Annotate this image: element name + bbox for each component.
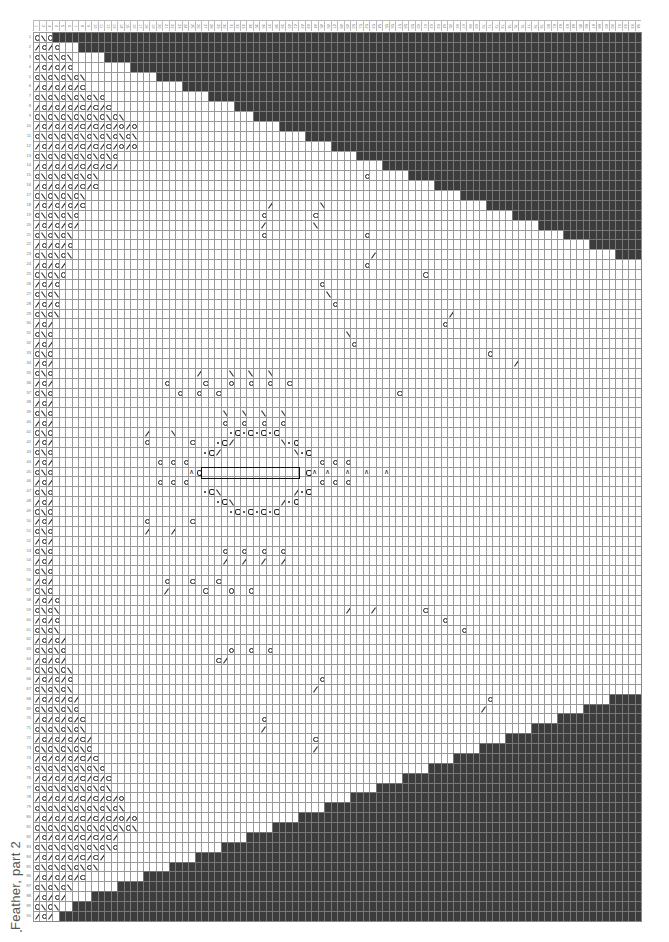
row-number: 83 bbox=[20, 842, 33, 852]
no-stitch-cell bbox=[635, 753, 641, 763]
row-number: 31 bbox=[20, 328, 33, 338]
no-stitch-cell bbox=[635, 812, 641, 822]
no-stitch-cell bbox=[635, 190, 641, 200]
row-number: 50 bbox=[20, 516, 33, 526]
row-number: 37 bbox=[20, 388, 33, 398]
row-number-labels: 1234567891011121314151617181920212223242… bbox=[20, 32, 33, 921]
no-stitch-cell bbox=[635, 802, 641, 812]
row-number: 17 bbox=[20, 190, 33, 200]
row-number: 3 bbox=[20, 52, 33, 62]
row-number: 14 bbox=[20, 160, 33, 170]
no-stitch-cell bbox=[635, 180, 641, 190]
knit-cell bbox=[635, 496, 641, 506]
no-stitch-cell bbox=[635, 881, 641, 891]
no-stitch-cell bbox=[635, 704, 641, 714]
row-number: 13 bbox=[20, 151, 33, 161]
row-number: 48 bbox=[20, 496, 33, 506]
row-number: 19 bbox=[20, 210, 33, 220]
no-stitch-cell bbox=[635, 773, 641, 783]
row-number: 34 bbox=[20, 358, 33, 368]
knit-cell bbox=[635, 269, 641, 279]
no-stitch-cell bbox=[635, 52, 641, 62]
knit-cell bbox=[635, 644, 641, 654]
knit-cell bbox=[635, 457, 641, 467]
row-number: 22 bbox=[20, 239, 33, 249]
row-number: 77 bbox=[20, 783, 33, 793]
no-stitch-cell bbox=[635, 42, 641, 52]
row-number: 26 bbox=[20, 279, 33, 289]
column-number-header: 1234567891011121314151617181920212223242… bbox=[33, 20, 641, 32]
knit-cell bbox=[635, 516, 641, 526]
knit-cell bbox=[635, 684, 641, 694]
row-number: 84 bbox=[20, 852, 33, 862]
knit-cell bbox=[635, 368, 641, 378]
no-stitch-cell bbox=[635, 239, 641, 249]
knit-cell bbox=[635, 348, 641, 358]
row-number: 56 bbox=[20, 575, 33, 585]
row-number: 54 bbox=[20, 555, 33, 565]
row-number: 43 bbox=[20, 447, 33, 457]
row-number: 51 bbox=[20, 526, 33, 536]
knit-cell bbox=[635, 318, 641, 328]
no-stitch-cell bbox=[635, 230, 641, 240]
knit-cell bbox=[635, 615, 641, 625]
row-number: 90 bbox=[20, 911, 33, 921]
knit-cell bbox=[635, 595, 641, 605]
row-number: 38 bbox=[20, 397, 33, 407]
row-number: 36 bbox=[20, 378, 33, 388]
row-number: 65 bbox=[20, 664, 33, 674]
no-stitch-cell bbox=[635, 121, 641, 131]
row-number: 2 bbox=[20, 42, 33, 52]
row-number: 7 bbox=[20, 91, 33, 101]
row-number: 68 bbox=[20, 694, 33, 704]
row-number: 30 bbox=[20, 318, 33, 328]
no-stitch-cell bbox=[635, 783, 641, 793]
row-number: 59 bbox=[20, 605, 33, 615]
no-stitch-cell bbox=[635, 832, 641, 842]
row-number: 41 bbox=[20, 427, 33, 437]
knit-cell bbox=[635, 467, 641, 477]
knit-cell bbox=[635, 546, 641, 556]
row-number: 75 bbox=[20, 763, 33, 773]
row-number: 24 bbox=[20, 259, 33, 269]
row-number: 47 bbox=[20, 486, 33, 496]
knit-cell bbox=[635, 506, 641, 516]
row-number: 71 bbox=[20, 723, 33, 733]
row-number: 69 bbox=[20, 704, 33, 714]
knit-cell bbox=[635, 417, 641, 427]
no-stitch-cell bbox=[635, 694, 641, 704]
knit-cell bbox=[635, 486, 641, 496]
no-stitch-cell bbox=[635, 792, 641, 802]
knit-cell bbox=[635, 654, 641, 664]
knit-cell bbox=[635, 328, 641, 338]
no-stitch-cell bbox=[635, 862, 641, 872]
knit-cell bbox=[635, 407, 641, 417]
row-number: 35 bbox=[20, 368, 33, 378]
knit-cell bbox=[635, 279, 641, 289]
no-stitch-cell bbox=[635, 723, 641, 733]
row-number: 79 bbox=[20, 802, 33, 812]
knit-cell bbox=[635, 674, 641, 684]
row-number: 45 bbox=[20, 467, 33, 477]
no-stitch-cell bbox=[635, 763, 641, 773]
row-number: 55 bbox=[20, 565, 33, 575]
no-stitch-cell bbox=[635, 220, 641, 230]
row-number: 86 bbox=[20, 871, 33, 881]
no-stitch-cell bbox=[635, 891, 641, 901]
row-number: 88 bbox=[20, 891, 33, 901]
row-number: 62 bbox=[20, 634, 33, 644]
row-number: 29 bbox=[20, 309, 33, 319]
knit-cell bbox=[635, 447, 641, 457]
knit-cell bbox=[635, 526, 641, 536]
no-stitch-cell bbox=[635, 32, 641, 42]
no-stitch-cell bbox=[635, 131, 641, 141]
knit-cell bbox=[635, 585, 641, 595]
no-stitch-cell bbox=[635, 743, 641, 753]
no-stitch-cell bbox=[635, 713, 641, 723]
row-number: 52 bbox=[20, 536, 33, 546]
no-stitch-cell bbox=[635, 101, 641, 111]
knit-cell bbox=[635, 575, 641, 585]
row-number: 11 bbox=[20, 131, 33, 141]
knit-cell bbox=[635, 358, 641, 368]
no-stitch-cell bbox=[635, 160, 641, 170]
